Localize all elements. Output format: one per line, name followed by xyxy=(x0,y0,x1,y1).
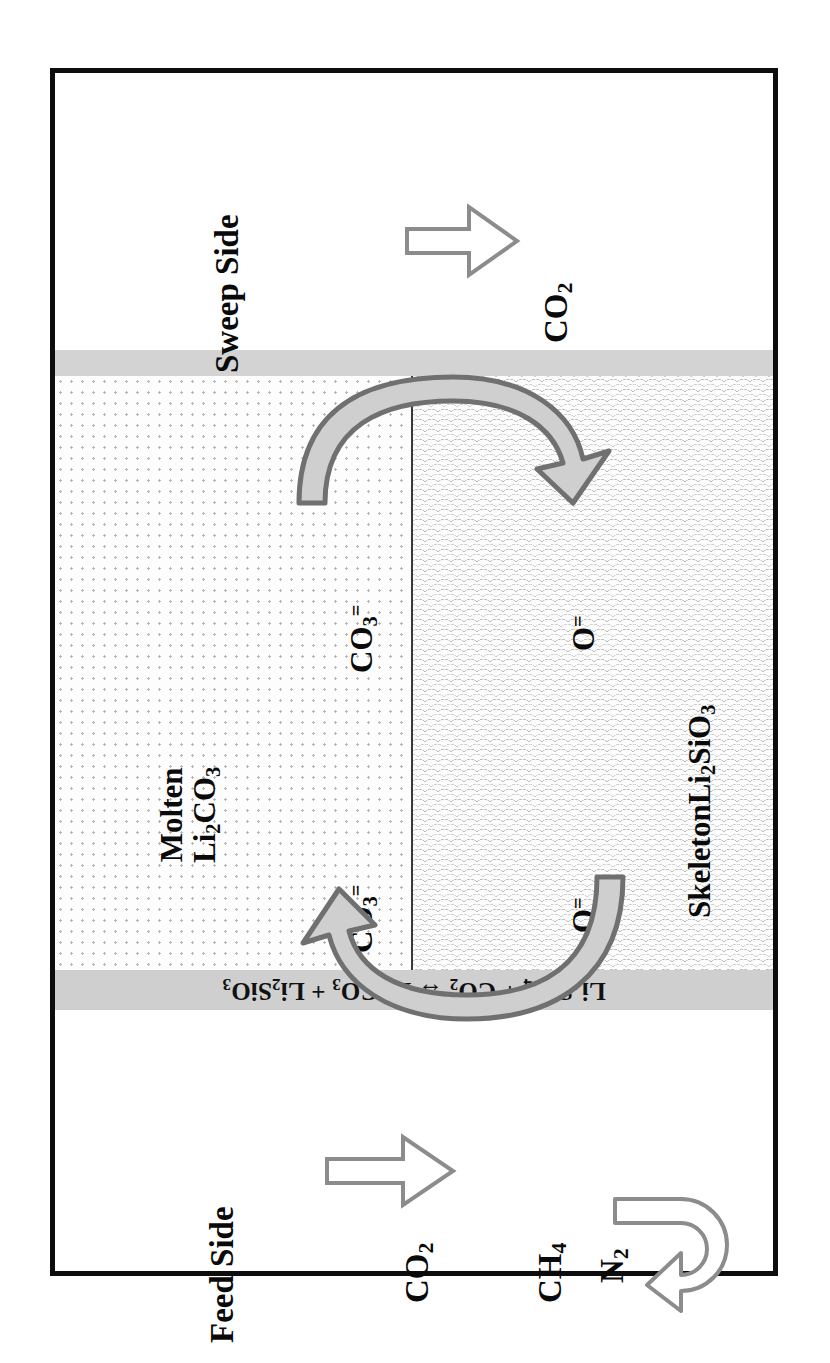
figure-canvas: Li4SiO4 + CO2 ↔ Li2CO3 + Li2SiO3 Sweep S… xyxy=(0,0,830,1363)
carbonate-transport-arrow-icon xyxy=(291,373,621,505)
feed-inlet-arrow-icon xyxy=(327,1133,455,1209)
oxide-ion-label-upper: O= xyxy=(567,615,601,651)
feed-co2-label: CO2 xyxy=(400,1243,438,1303)
retentate-uturn-arrow-icon xyxy=(611,1193,749,1313)
molten-phase-label: MoltenLi2CO3 xyxy=(155,767,224,863)
carbonate-ion-label-upper: CO3= xyxy=(345,605,381,673)
skeleton-phase-label: SkeletonLi2SiO3 xyxy=(683,705,719,918)
sweep-side-title: Sweep Side xyxy=(210,214,246,373)
sweep-permeate-arrow-icon xyxy=(407,203,519,279)
sweep-co2-label: CO2 xyxy=(539,283,577,343)
feed-side-title: Feed Side xyxy=(205,1206,241,1343)
methane-label: CH4 xyxy=(533,1243,571,1303)
oxide-transport-arrow-icon xyxy=(291,873,631,1023)
diagram-frame: Li4SiO4 + CO2 ↔ Li2CO3 + Li2SiO3 Sweep S… xyxy=(50,68,778,1276)
